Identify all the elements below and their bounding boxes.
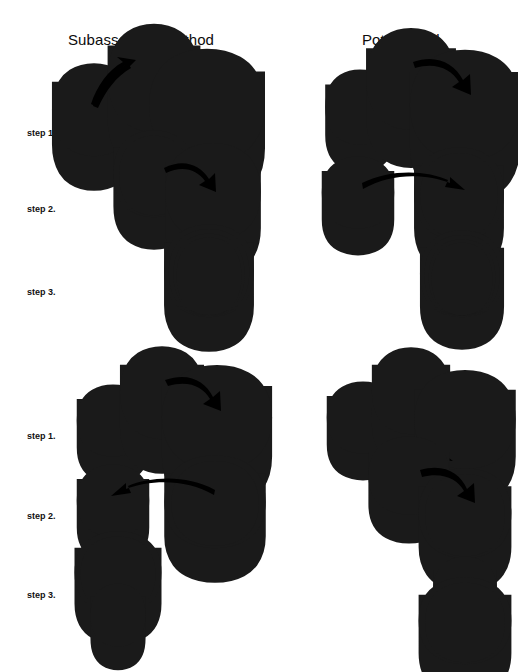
column-title-subassembly-method: Subassembly method	[68, 31, 214, 48]
part-medium-cylinder	[381, 460, 437, 520]
part-small-cylinder	[88, 406, 138, 462]
part-lower-ring	[433, 603, 497, 670]
part-final-assembly	[433, 256, 491, 323]
part-lower-cylinder	[99, 603, 137, 652]
part-small-cylinder	[338, 403, 388, 459]
alternative-label-left: or	[150, 353, 162, 369]
step-label-bottom-3: step 3.	[27, 590, 56, 600]
arrow-right-down-tr1	[413, 59, 471, 95]
arrow-right-down-br2	[420, 468, 475, 503]
part-large-cylinder	[430, 400, 500, 477]
part-group-br-step2	[381, 460, 497, 565]
arrow-right-down-bl1	[165, 377, 221, 411]
part-large-cylinder	[167, 83, 247, 171]
arrow-left-bl2	[111, 479, 215, 496]
part-group-tr-step3	[433, 256, 491, 323]
part-small-cylinder	[65, 91, 123, 163]
arrow-right-tr2	[362, 173, 465, 191]
part-ring-with-insert	[433, 495, 497, 565]
part-group-br-step1	[338, 373, 500, 476]
part-small-cylinder	[333, 178, 383, 234]
arrow-right-br1	[383, 444, 453, 461]
part-group-tl-step2	[126, 156, 246, 247]
part-large-cylinder	[179, 396, 255, 477]
assembly-methods-figure: Subassembly method Pot method or or step…	[0, 0, 518, 672]
part-group-tr-step2	[333, 173, 490, 247]
diagram-artwork	[0, 0, 518, 672]
step-label-bottom-1: step 1.	[27, 431, 56, 441]
part-medium-cylinder	[122, 56, 186, 140]
part-medium-cylinder	[384, 373, 438, 440]
part-group-tr-step1	[336, 59, 503, 169]
step-label-bottom-2: step 2.	[27, 511, 56, 521]
part-small-cylinder	[88, 486, 138, 542]
step-label-top-3: step 3.	[27, 287, 56, 297]
arrow-right-down-tl2	[164, 163, 216, 192]
part-large-ring	[428, 175, 490, 247]
part-large-ring	[180, 483, 250, 555]
step-label-top-1: step 1.	[27, 128, 56, 138]
part-upper-ring	[88, 556, 148, 620]
part-final-assembly	[178, 252, 240, 324]
part-group-tl-step3	[178, 252, 240, 324]
arrow-shaft-tl1	[93, 63, 131, 108]
part-group-br-step3	[433, 577, 497, 670]
part-large-cylinder	[180, 172, 246, 247]
alternative-label-right: or	[404, 353, 416, 369]
part-medium-cylinder	[133, 374, 191, 446]
part-group-bl-step2	[88, 479, 250, 555]
part-group-tl-step1	[65, 56, 247, 171]
part-subassembly-ring	[126, 156, 182, 223]
part-small-cylinder	[336, 92, 384, 150]
part-large-cylinder	[427, 83, 503, 169]
part-group-bl-step1	[88, 374, 255, 478]
step-label-top-2: step 2.	[27, 204, 56, 214]
part-group-bl-step3	[88, 556, 148, 651]
column-title-pot-method: Pot method	[362, 31, 440, 48]
part-medium-cylinder	[380, 59, 442, 138]
arrow-up-right-tl1	[91, 57, 136, 106]
part-upper-cylinder	[443, 577, 487, 630]
